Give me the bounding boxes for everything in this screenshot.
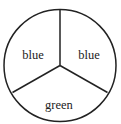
section-label-upper-right: blue xyxy=(78,48,100,62)
spinner-diagram: blue blue green xyxy=(0,0,121,124)
section-label-upper-left: blue xyxy=(22,48,44,62)
section-label-bottom: green xyxy=(45,98,74,112)
